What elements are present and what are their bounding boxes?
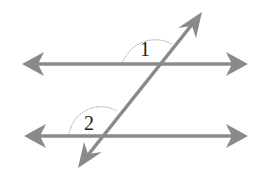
- angle-2-label: 2: [84, 113, 94, 133]
- diagram-svg: [0, 0, 266, 180]
- arrowhead-icon: [78, 142, 102, 168]
- angle-1-label: 1: [140, 39, 150, 59]
- arrowhead-icon: [178, 12, 202, 38]
- diagram-canvas: 1 2: [0, 0, 266, 180]
